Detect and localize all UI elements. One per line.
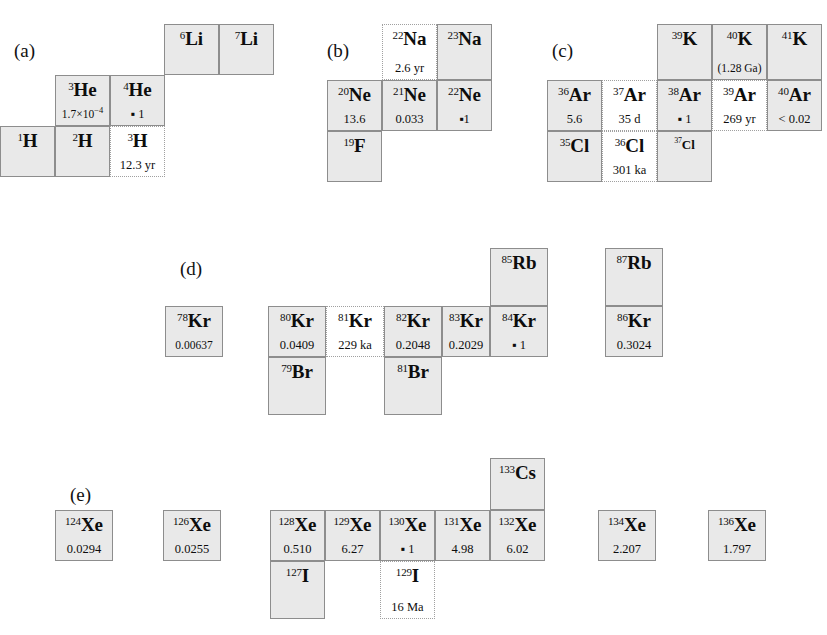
nuclide-cell-22Ne: 22Ne▪1: [437, 80, 492, 131]
element-symbol: Xe: [459, 514, 481, 535]
element-symbol: He: [74, 79, 97, 100]
mass-number: 86: [617, 311, 628, 323]
nuclide-symbol: 38Ar: [668, 85, 701, 104]
nuclide-symbol: 23Na: [448, 29, 482, 48]
mass-number: 22: [393, 29, 404, 41]
mass-number: 129: [333, 515, 349, 527]
nuclide-symbol: 40K: [727, 29, 752, 48]
element-symbol: Na: [403, 28, 426, 49]
element-symbol: Kr: [291, 310, 314, 331]
nuclide-cell-136Xe: 136Xe1.797: [708, 510, 766, 561]
element-symbol: Ar: [679, 84, 701, 105]
mass-number: 40: [778, 85, 789, 97]
nuclide-value: 1.7×10−4: [62, 106, 103, 120]
nuclide-cell-20Ne: 20Ne13.6: [327, 80, 382, 131]
mass-number: 132: [498, 515, 514, 527]
nuclide-cell-40Ar: 40Ar< 0.02: [767, 80, 822, 131]
nuclide-cell-39K: 39K: [657, 24, 712, 80]
nuclide-symbol: 78Kr: [177, 311, 211, 330]
element-symbol: He: [129, 79, 152, 100]
nuclide-cell-39Ar: 39Ar269 yr: [712, 80, 767, 131]
nuclide-value: ▪ 1: [678, 113, 692, 126]
element-symbol: H: [23, 130, 38, 151]
element-symbol: Ar: [624, 84, 646, 105]
nuclide-value: 0.00637: [175, 340, 212, 352]
mass-number: 78: [177, 311, 188, 323]
nuclide-symbol: 127I: [286, 566, 309, 585]
element-symbol: Ar: [734, 84, 756, 105]
element-symbol: Cl: [682, 137, 695, 152]
nuclide-cell-7Li: 7Li: [219, 24, 274, 75]
nuclide-value: 0.510: [283, 543, 311, 556]
mass-number: 134: [608, 515, 624, 527]
nuclide-cell-40K: 40K(1.28 Ga): [712, 24, 767, 80]
mass-number: 38: [668, 85, 679, 97]
mass-number: 87: [617, 253, 628, 265]
nuclide-symbol: 19F: [343, 136, 365, 155]
nuclide-symbol: 129I: [396, 566, 419, 585]
nuclide-value: 0.0409: [280, 339, 314, 352]
nuclide-value: 0.0255: [175, 543, 209, 556]
mass-number: 131: [443, 515, 459, 527]
nuclide-value: 4.98: [452, 543, 474, 556]
nuclide-symbol: 131Xe: [443, 515, 481, 534]
nuclide-symbol: 4He: [123, 80, 152, 99]
nuclide-cell-86Kr: 86Kr0.3024: [605, 306, 663, 357]
nuclide-symbol: 21Ne: [393, 85, 426, 104]
mass-number: 22: [448, 85, 459, 97]
nuclide-symbol: 40Ar: [778, 85, 811, 104]
panel-label-b: (b): [327, 40, 349, 62]
element-symbol: Xe: [294, 514, 316, 535]
nuclide-value: 301 ka: [613, 164, 647, 177]
nuclide-cell-38Ar: 38Ar▪ 1: [657, 80, 712, 131]
nuclide-chart-figure: (a)(b)(c)(d)(e)6Li7Li3He1.7×10−44He▪ 11H…: [0, 0, 827, 635]
nuclide-symbol: 124Xe: [65, 515, 103, 534]
element-symbol: Br: [408, 361, 429, 382]
element-symbol: Xe: [734, 514, 756, 535]
nuclide-value: 13.6: [344, 113, 366, 126]
nuclide-symbol: 39K: [672, 29, 697, 48]
nuclide-cell-36Ar: 36Ar5.6: [547, 80, 602, 131]
mass-number: 80: [280, 311, 291, 323]
element-symbol: Ne: [404, 84, 426, 105]
element-symbol: Xe: [349, 514, 371, 535]
element-symbol: Rb: [627, 252, 651, 273]
element-symbol: K: [792, 28, 807, 49]
mass-number: 127: [286, 566, 302, 578]
nuclide-symbol: 7Li: [235, 29, 258, 48]
nuclide-symbol: 1H: [17, 131, 37, 150]
nuclide-symbol: 81Kr: [338, 311, 372, 330]
mass-number: 20: [338, 85, 349, 97]
nuclide-cell-134Xe: 134Xe2.207: [598, 510, 656, 561]
nuclide-symbol: 35Cl: [560, 136, 590, 155]
nuclide-cell-37Ar: 37Ar35 d: [602, 80, 657, 131]
nuclide-symbol: 133Cs: [499, 463, 536, 482]
nuclide-cell-81Br: 81Br: [384, 357, 442, 415]
nuclide-cell-78Kr: 78Kr0.00637: [165, 306, 223, 357]
nuclide-value: 0.0294: [67, 543, 101, 556]
panel-label-d: (d): [180, 258, 202, 280]
nuclide-value: 2.207: [613, 543, 641, 556]
nuclide-value: 0.3024: [617, 339, 651, 352]
element-symbol: K: [682, 28, 697, 49]
mass-number: 35: [560, 136, 571, 148]
nuclide-cell-35Cl: 35Cl: [547, 131, 602, 182]
nuclide-cell-87Rb: 87Rb: [605, 248, 663, 306]
element-symbol: Kr: [407, 310, 430, 331]
element-symbol: H: [133, 130, 148, 151]
nuclide-symbol: 37Ar: [613, 85, 646, 104]
nuclide-cell-129I: 129I16 Ma: [380, 561, 435, 619]
element-symbol: Ne: [349, 84, 371, 105]
nuclide-symbol: 130Xe: [388, 515, 426, 534]
element-symbol: Xe: [189, 514, 211, 535]
mass-number: 21: [393, 85, 404, 97]
nuclide-cell-37Cl: 37Cl: [657, 131, 712, 182]
element-symbol: Li: [185, 28, 203, 49]
mass-number: 37: [613, 85, 624, 97]
mass-number: 37: [674, 136, 682, 145]
nuclide-symbol: 37Cl: [674, 136, 695, 152]
nuclide-value: (1.28 Ga): [717, 63, 761, 75]
panel-label-c: (c): [552, 40, 573, 62]
nuclide-cell-80Kr: 80Kr0.0409: [268, 306, 326, 357]
nuclide-symbol: 128Xe: [278, 515, 316, 534]
